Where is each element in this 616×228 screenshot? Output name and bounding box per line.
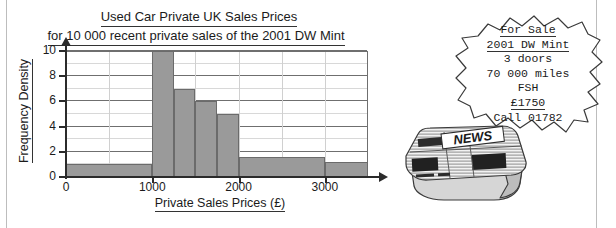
y-axis-tick-label: 8 xyxy=(30,69,56,81)
y-axis-title: Frequency Density xyxy=(17,46,31,176)
y-axis-tick xyxy=(59,75,67,77)
y-axis-tick-label: 6 xyxy=(30,94,56,106)
newspaper-illustration: NEWS xyxy=(398,112,538,204)
chart-title-line1: Used Car Private UK Sales Prices xyxy=(101,8,298,27)
histogram-bar xyxy=(217,114,239,177)
x-axis-tick-label: 0 xyxy=(43,180,89,194)
histogram-bar xyxy=(152,51,174,177)
y-axis-tick xyxy=(59,100,67,102)
x-axis-line xyxy=(65,176,380,178)
y-axis-tick-label: 4 xyxy=(30,120,56,132)
page-canvas: Used Car Private UK Sales Prices for 10 … xyxy=(0,0,616,228)
y-axis-tick xyxy=(59,50,67,52)
y-axis-line xyxy=(65,45,67,179)
folded-newspaper-icon: NEWS xyxy=(398,112,538,204)
histogram-chart: Used Car Private UK Sales Prices for 10 … xyxy=(0,0,400,228)
gridline-horizontal xyxy=(66,75,367,76)
x-axis-tick-label: 1000 xyxy=(129,180,175,194)
ad-line: 70 000 miles xyxy=(448,67,608,82)
ad-line: 3 doors xyxy=(448,52,608,67)
y-axis-tick xyxy=(59,176,67,178)
histogram-bar xyxy=(174,89,196,177)
gridline-vertical xyxy=(325,52,326,177)
x-axis-title: Private Sales Prices (£) xyxy=(85,196,355,210)
ad-text-block: For Sale2001 DW Mint3 doors70 000 milesF… xyxy=(448,23,608,125)
ad-line: FSH xyxy=(448,81,608,96)
y-axis-tick-label: 10 xyxy=(30,44,56,56)
gridline-horizontal xyxy=(66,88,367,89)
y-axis-tick xyxy=(59,126,67,128)
ad-line: 2001 DW Mint xyxy=(448,38,608,53)
chart-title-line2: for 10 000 recent private sales of the 2… xyxy=(48,27,345,46)
plot-area xyxy=(66,51,368,177)
ad-line: For Sale xyxy=(448,23,608,38)
y-axis-tick-label: 2 xyxy=(30,145,56,157)
histogram-bar xyxy=(195,101,217,177)
gridline-horizontal xyxy=(66,63,367,64)
x-axis-arrow-icon xyxy=(379,172,388,182)
gridline-vertical xyxy=(109,52,110,177)
x-axis-tick-label: 3000 xyxy=(302,180,348,194)
ad-line: £1750 xyxy=(448,96,608,111)
y-axis-tick xyxy=(59,151,67,153)
chart-title: Used Car Private UK Sales Prices for 10 … xyxy=(34,8,364,46)
histogram-bar xyxy=(239,157,325,177)
gridline-horizontal xyxy=(66,50,367,51)
y-axis-arrow-icon xyxy=(61,37,71,46)
x-axis-tick-label: 2000 xyxy=(216,180,262,194)
histogram-bar xyxy=(325,162,368,177)
